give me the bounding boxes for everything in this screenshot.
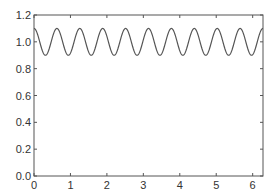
y-tick-label: 0.4 — [16, 116, 31, 128]
chart: 0.00.20.40.60.81.01.2 0123456 — [0, 0, 279, 196]
y-tick-label: 0.2 — [16, 143, 31, 155]
y-tick-label: 0.8 — [16, 63, 31, 75]
x-tick-label: 5 — [213, 179, 219, 191]
series-line — [34, 28, 263, 55]
x-tick-label: 1 — [67, 179, 73, 191]
x-tick-label: 3 — [140, 179, 146, 191]
y-tick-label: 0.6 — [16, 90, 31, 102]
x-tick-label: 6 — [250, 179, 256, 191]
y-tick-label: 1.2 — [16, 9, 31, 21]
y-tick-label: 1.0 — [16, 36, 31, 48]
plot-area — [34, 28, 263, 55]
x-tick-label: 0 — [31, 179, 37, 191]
y-tick-label: 0.0 — [16, 170, 31, 182]
x-tick-label: 4 — [177, 179, 183, 191]
x-tick-label: 2 — [104, 179, 110, 191]
plot-frame — [34, 15, 263, 176]
